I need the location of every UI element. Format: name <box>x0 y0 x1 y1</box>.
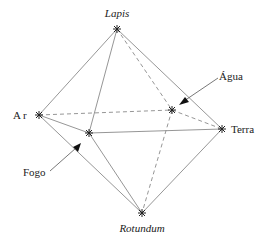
label-rotundum: Rotundum <box>118 222 164 234</box>
fogo-pointer-line <box>50 148 76 171</box>
edge-lapis-terra <box>117 29 222 129</box>
star-icon-fogo <box>85 129 93 137</box>
star-icon-terra <box>218 125 226 133</box>
label-agua: Água <box>219 70 243 82</box>
agua-pointer-line <box>184 78 218 101</box>
edge-fogo-rotundum <box>89 133 142 213</box>
star-icon-ar <box>35 111 43 119</box>
edge-ar-rotundum <box>39 115 142 213</box>
octahedron-diagram: Lapis Ar Fogo Água Terra Rotundum <box>0 0 268 244</box>
edge-ar-fogo <box>39 115 89 133</box>
edge-fogo-terra <box>89 129 222 133</box>
edge-agua-terra <box>172 110 222 129</box>
label-terra: Terra <box>231 123 254 135</box>
edge-ar-agua <box>39 110 172 115</box>
star-icon-rotundum <box>138 209 146 217</box>
vertex-markers <box>35 25 226 217</box>
edges <box>39 29 222 213</box>
label-lapis: Lapis <box>104 7 129 19</box>
label-ar: Ar <box>13 109 29 121</box>
pointer-arrows <box>50 78 218 171</box>
star-icon-lapis <box>113 25 121 33</box>
edge-lapis-agua <box>117 29 172 110</box>
fogo-arrowhead-icon <box>73 143 81 152</box>
label-fogo: Fogo <box>23 166 46 178</box>
star-icon-agua <box>168 106 176 114</box>
